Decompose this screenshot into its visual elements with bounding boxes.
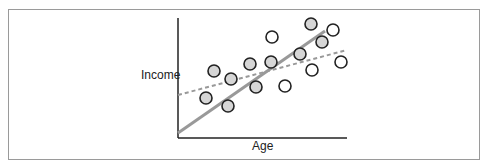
data-point bbox=[200, 92, 212, 104]
data-point bbox=[306, 64, 318, 76]
scatter-plot bbox=[0, 0, 487, 167]
data-point bbox=[222, 100, 234, 112]
data-point bbox=[305, 18, 317, 30]
data-point bbox=[335, 56, 347, 68]
data-point bbox=[279, 80, 291, 92]
data-point bbox=[294, 48, 306, 60]
data-point bbox=[266, 31, 278, 43]
data-point bbox=[316, 36, 328, 48]
data-point bbox=[244, 58, 256, 70]
y-axis-label: Income bbox=[141, 68, 180, 82]
x-axis-label: Age bbox=[252, 139, 273, 153]
data-point bbox=[265, 56, 277, 68]
data-point bbox=[208, 65, 220, 77]
data-point bbox=[250, 81, 262, 93]
data-point bbox=[327, 24, 339, 36]
data-point bbox=[225, 73, 237, 85]
